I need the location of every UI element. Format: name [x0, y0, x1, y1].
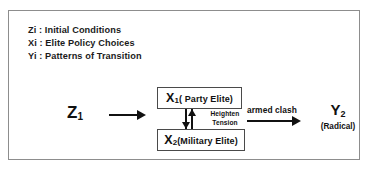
node-military-elite-symbol: X: [164, 133, 172, 147]
legend-item-yi: Yi : Patterns of Transition: [28, 50, 228, 63]
node-party-elite-text: ( Party Elite): [179, 94, 233, 104]
node-outcome-subscript: 2: [341, 109, 346, 119]
node-party-elite-subscript: 1: [174, 96, 179, 105]
arrow-head: [188, 109, 196, 116]
node-outcome-symbol: Y: [330, 101, 340, 118]
right-arrow-icon: [247, 116, 302, 126]
tension-label-line2: Tension: [202, 118, 248, 127]
node-outcome-label: (Radical): [311, 121, 365, 132]
transition-label: armed clash: [247, 105, 297, 115]
arrow-shaft: [109, 114, 138, 116]
node-party-elite-label: X1( Party Elite): [166, 91, 233, 105]
diagram-frame: Zi : Initial Conditions Xi : Elite Polic…: [8, 10, 360, 160]
node-initial-condition: Z1: [67, 103, 83, 124]
tension-label-line1: Heighten: [202, 109, 248, 118]
node-outcome: Y2 (Radical): [311, 101, 365, 132]
tension-arrows: [182, 109, 198, 129]
right-arrow-icon: [109, 110, 146, 120]
node-initial-condition-symbol: Z: [67, 103, 77, 122]
node-outcome-symbol-row: Y2: [311, 101, 365, 121]
diagram-canvas: Zi : Initial Conditions Xi : Elite Polic…: [0, 0, 368, 173]
tension-label: Heighten Tension: [202, 109, 248, 127]
arrow-head: [292, 116, 301, 126]
node-military-elite-text: (Military Elite): [177, 136, 238, 146]
arrow-head: [137, 110, 146, 120]
node-party-elite: X1( Party Elite): [157, 87, 242, 109]
node-initial-condition-subscript: 1: [77, 111, 83, 122]
arrow-shaft: [247, 120, 293, 122]
node-military-elite-label: X2(Military Elite): [164, 133, 238, 147]
up-arrow-icon: [188, 109, 196, 129]
legend-item-xi: Xi : Elite Policy Choices: [28, 37, 228, 50]
legend-item-zi: Zi : Initial Conditions: [28, 24, 228, 37]
node-military-elite-subscript: 2: [173, 138, 178, 147]
legend: Zi : Initial Conditions Xi : Elite Polic…: [28, 24, 228, 64]
node-military-elite: X2(Military Elite): [157, 129, 245, 151]
